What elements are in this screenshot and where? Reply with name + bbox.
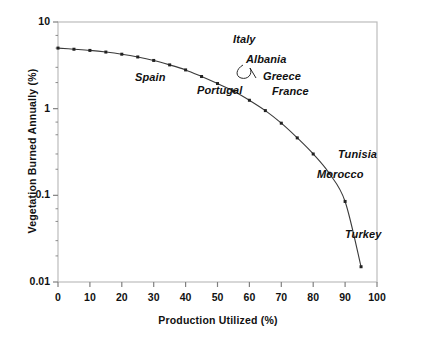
- data-point-marker: [120, 53, 123, 56]
- data-point-marker: [296, 136, 299, 139]
- annotation-tunisia: Tunisia: [338, 148, 377, 160]
- y-tick-label: 10: [2, 15, 50, 27]
- data-point-marker: [152, 59, 155, 62]
- data-point-marker: [280, 122, 283, 125]
- x-axis-title-text: Production Utilized (%): [158, 314, 278, 326]
- data-point-marker: [312, 152, 315, 155]
- data-point-marker: [184, 68, 187, 71]
- plot-frame: [58, 22, 377, 282]
- data-point-marker: [360, 265, 363, 268]
- y-tick-label: 1: [2, 102, 50, 114]
- data-point-marker: [168, 63, 171, 66]
- annotation-albania: Albania: [246, 53, 286, 65]
- x-tick-label: 100: [357, 291, 397, 303]
- data-point-marker: [344, 200, 347, 203]
- annotation-italy: Italy: [233, 33, 256, 45]
- data-point-marker: [200, 75, 203, 78]
- data-point-marker: [72, 48, 75, 51]
- data-point-marker: [248, 99, 251, 102]
- albania-leader-line: [237, 65, 251, 78]
- data-point-marker: [57, 47, 60, 50]
- x-tick-marks: [58, 282, 377, 287]
- annotation-greece: Greece: [263, 70, 301, 82]
- data-point-marker: [264, 109, 267, 112]
- annotation-spain: Spain: [135, 71, 165, 83]
- data-point-marker: [104, 51, 107, 54]
- y-axis-title-text: Vegetation Burned Annually (%): [26, 69, 38, 234]
- annotation-turkey: Turkey: [345, 228, 381, 240]
- y-tick-label: 0.01: [2, 275, 50, 287]
- y-tick-marks: [53, 22, 58, 282]
- y-tick-label: 0.1: [2, 188, 50, 200]
- annotation-france: France: [272, 85, 309, 97]
- axes-frame: [58, 22, 377, 282]
- y-axis-title: Vegetation Burned Annually (%): [26, 26, 38, 276]
- annotation-morocco: Morocco: [317, 168, 364, 180]
- x-axis-title: Production Utilized (%): [58, 314, 378, 326]
- data-point-marker: [136, 55, 139, 58]
- chart-figure: Vegetation Burned Annually (%) Productio…: [0, 0, 422, 339]
- data-point-marker: [88, 49, 91, 52]
- annotation-portugal: Portugal: [197, 84, 242, 96]
- data-curve: [58, 48, 361, 267]
